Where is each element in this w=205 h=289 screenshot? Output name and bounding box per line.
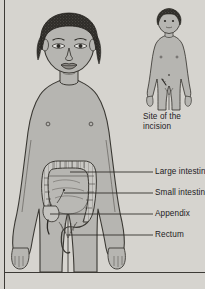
eye-right bbox=[74, 44, 87, 49]
inset-hand-left bbox=[147, 96, 153, 106]
hair-side-left bbox=[37, 36, 42, 60]
inset-hand-right bbox=[185, 96, 191, 106]
inset-eye-left bbox=[164, 20, 166, 22]
inset-eye-right bbox=[172, 20, 174, 22]
label-large-intestine: Large intestine bbox=[155, 167, 205, 177]
caption-partial bbox=[8, 280, 198, 287]
hand-left bbox=[12, 248, 29, 269]
label-site-of-incision: Site of the incision bbox=[143, 112, 201, 131]
label-small-intestine: Small intestine bbox=[155, 188, 205, 198]
illustration-artwork bbox=[0, 0, 205, 289]
body-silhouette bbox=[13, 78, 125, 272]
hand-right bbox=[108, 248, 125, 269]
label-appendix: Appendix bbox=[155, 209, 190, 219]
hair-side-right bbox=[96, 36, 101, 64]
label-rectum: Rectum bbox=[155, 230, 184, 240]
anatomy-figure: Site of the incision Large intestine Sma… bbox=[0, 0, 205, 289]
inset-child-figure bbox=[147, 9, 192, 111]
main-child-figure bbox=[12, 13, 126, 272]
inset-navel bbox=[168, 74, 170, 76]
eye-left bbox=[52, 44, 65, 49]
